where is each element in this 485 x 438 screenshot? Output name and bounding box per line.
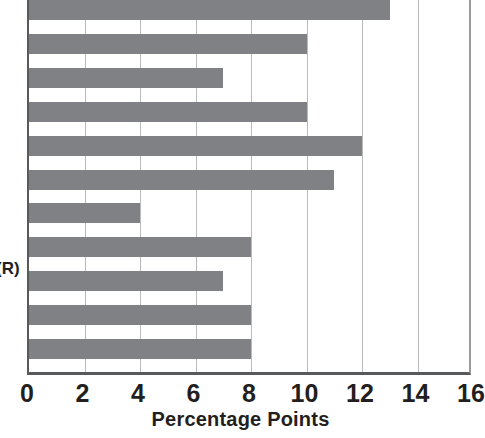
x-axis-title: Percentage Points <box>0 408 481 431</box>
bar <box>29 170 334 190</box>
bar-row <box>29 237 471 257</box>
bar <box>29 237 251 257</box>
x-tick-label: 0 <box>20 379 34 407</box>
category-label-partial: (R) <box>0 259 20 279</box>
bar-row <box>29 170 471 190</box>
bar-row <box>29 339 471 359</box>
x-tick-label: 6 <box>187 379 201 407</box>
bar-row <box>29 34 471 54</box>
bar <box>29 339 251 359</box>
bar-row <box>29 0 471 20</box>
bar <box>29 203 140 223</box>
bar-row <box>29 271 471 291</box>
plot-area <box>27 0 471 375</box>
bar-row <box>29 305 471 325</box>
bar <box>29 271 223 291</box>
bar-row <box>29 68 471 88</box>
bar-row <box>29 136 471 156</box>
bar <box>29 136 362 156</box>
bar <box>29 34 307 54</box>
bar <box>29 68 223 88</box>
bar-row <box>29 203 471 223</box>
bar <box>29 102 307 122</box>
x-tick-label: 8 <box>242 379 256 407</box>
x-axis-tick-labels: 0246810121416 <box>0 379 481 409</box>
x-tick-label: 2 <box>76 379 90 407</box>
x-tick-label: 4 <box>131 379 145 407</box>
x-tick-label: 14 <box>402 379 430 407</box>
x-tick-label: 10 <box>291 379 319 407</box>
bar <box>29 0 390 20</box>
bar-row <box>29 102 471 122</box>
bar <box>29 305 251 325</box>
x-tick-label: 12 <box>346 379 374 407</box>
x-tick-label: 16 <box>457 379 485 407</box>
